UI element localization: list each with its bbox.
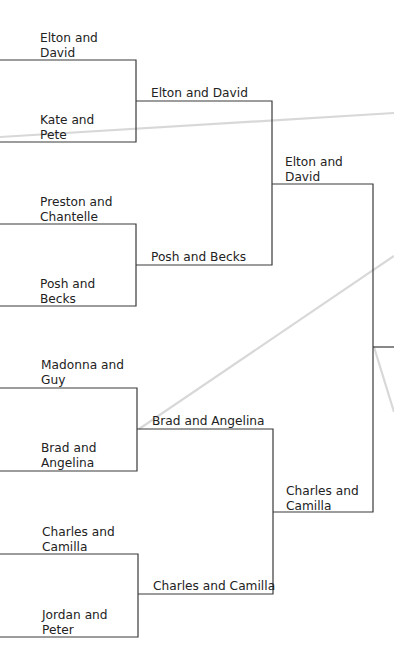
team-r1-5: Madonna and Guy	[41, 358, 124, 388]
team-name-line: Camilla	[42, 540, 115, 555]
match-r3-1	[272, 184, 373, 512]
team-r3-1: Elton and David	[285, 155, 343, 185]
team-name-line: Pete	[40, 128, 94, 143]
team-r2-1: Elton and David	[151, 86, 248, 101]
team-r1-8: Jordan and Peter	[42, 608, 108, 638]
team-name-line: Becks	[40, 292, 95, 307]
team-r2-2: Posh and Becks	[151, 250, 246, 265]
team-name-line: Angelina	[41, 456, 96, 471]
match-r2-2	[137, 429, 273, 594]
team-name-line: Camilla	[286, 499, 359, 514]
team-name-line: Chantelle	[40, 210, 113, 225]
team-r1-6: Brad and Angelina	[41, 441, 96, 471]
guide-line-3	[374, 347, 394, 412]
team-name-line: Peter	[42, 623, 108, 638]
team-name-line: Preston and	[40, 195, 113, 210]
team-r2-4: Charles and Camilla	[153, 579, 275, 594]
team-name-line: Madonna and	[41, 358, 124, 373]
team-name-line: Brad and	[41, 441, 96, 456]
team-name-line: Elton and	[285, 155, 343, 170]
team-name-line: David	[285, 170, 343, 185]
team-r2-3: Brad and Angelina	[152, 414, 265, 429]
team-name-line: Charles and	[42, 525, 115, 540]
team-name-line: Posh and	[40, 277, 95, 292]
team-r3-2: Charles and Camilla	[286, 484, 359, 514]
team-r1-7: Charles and Camilla	[42, 525, 115, 555]
team-r1-2: Kate and Pete	[40, 113, 94, 143]
team-r1-3: Preston and Chantelle	[40, 195, 113, 225]
team-r1-4: Posh and Becks	[40, 277, 95, 307]
guide-line-2	[139, 256, 394, 429]
team-name-line: David	[40, 46, 98, 61]
team-name-line: Jordan and	[42, 608, 108, 623]
team-name-line: Elton and	[40, 31, 98, 46]
team-r1-1: Elton and David	[40, 31, 98, 61]
team-name-line: Charles and	[286, 484, 359, 499]
team-name-line: Guy	[41, 373, 124, 388]
team-name-line: Kate and	[40, 113, 94, 128]
